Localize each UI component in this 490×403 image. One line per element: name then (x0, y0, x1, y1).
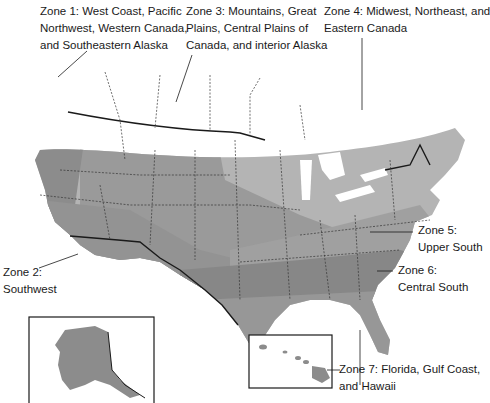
zone-3-line-3: Canada, and interior Alaska (186, 37, 327, 54)
zone-7-line-1: Zone 7: Florida, Gulf Coast, (339, 361, 480, 378)
zone-5-line-2: Upper South (418, 239, 483, 256)
zone-5-label: Zone 5: Upper South (418, 222, 483, 256)
zone-4-line-1: Zone 4: Midwest, Northeast, and (324, 3, 490, 20)
zone-3-label: Zone 3: Mountains, Great Plains, Central… (186, 3, 327, 54)
zone-7-label: Zone 7: Florida, Gulf Coast, and Hawaii (339, 361, 480, 395)
zone-4-label: Zone 4: Midwest, Northeast, and Eastern … (324, 3, 490, 37)
zone-1-label: Zone 1: West Coast, Pacific Northwest, W… (40, 3, 187, 54)
zone-3-line-1: Zone 3: Mountains, Great (186, 3, 327, 20)
alaska-inset (29, 317, 154, 403)
zone-2-label: Zone 2: Southwest (3, 264, 57, 298)
zone-6-line-2: Central South (398, 279, 468, 296)
zone-4-line-2: Eastern Canada (324, 20, 490, 37)
zone-7-line-2: and Hawaii (339, 378, 480, 395)
us-canada-border (68, 112, 265, 140)
zone-3-line-2: Plains, Central Plains of (186, 20, 327, 37)
zone-2-line-2: Southwest (3, 281, 57, 298)
zone-5-line-1: Zone 5: (418, 222, 483, 239)
zone-2-line-1: Zone 2: (3, 264, 57, 281)
zone-1-line-2: Northwest, Western Canada, (40, 20, 187, 37)
zone-1-line-3: and Southeastern Alaska (40, 37, 187, 54)
zone-6-line-1: Zone 6: (398, 262, 468, 279)
zone-6-label: Zone 6: Central South (398, 262, 468, 296)
hawaii-inset (249, 335, 332, 388)
zone-1-line-1: Zone 1: West Coast, Pacific (40, 3, 187, 20)
